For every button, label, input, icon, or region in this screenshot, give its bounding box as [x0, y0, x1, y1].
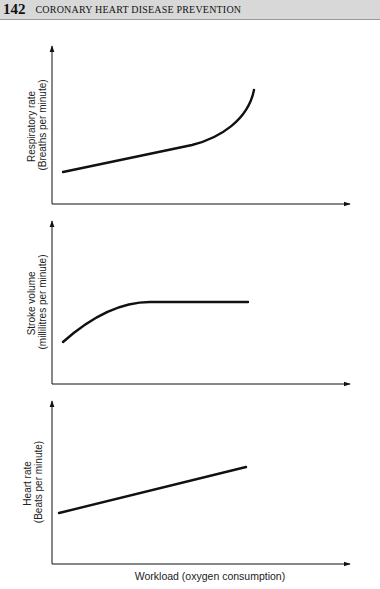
- curve-respiratory-rate: [63, 90, 254, 172]
- figure: Respiratory rate (Breaths per minute) St…: [0, 0, 380, 589]
- chart-heart-rate: Heart rate (Beats per minute) Workload (…: [22, 401, 350, 582]
- curve-stroke-volume: [63, 302, 248, 342]
- y-axis-label: Stroke volume (millilitres per minute): [26, 254, 48, 349]
- x-axis-label: Workload (oxygen consumption): [135, 570, 285, 582]
- line-heart-rate: [59, 467, 246, 513]
- y-axis-label: Respiratory rate (Breaths per minute): [26, 79, 48, 170]
- chart-stroke-volume: Stroke volume (millilitres per minute): [26, 221, 350, 384]
- chart-respiratory-rate: Respiratory rate (Breaths per minute): [26, 46, 350, 204]
- y-axis-label: Heart rate (Beats per minute): [22, 441, 44, 523]
